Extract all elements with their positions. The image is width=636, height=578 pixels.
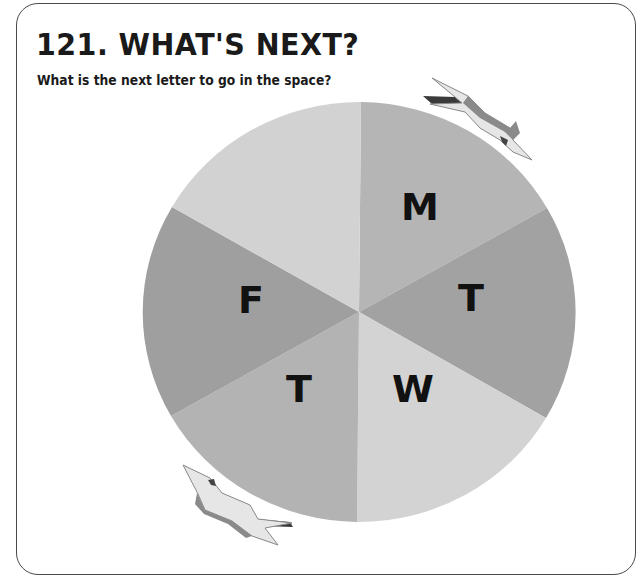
letter-bottom-right: W [392, 367, 434, 411]
letter-top-right: M [401, 185, 439, 229]
letter-bottom-left: T [286, 367, 312, 411]
letter-right: T [458, 276, 484, 320]
letter-left: F [238, 278, 264, 322]
